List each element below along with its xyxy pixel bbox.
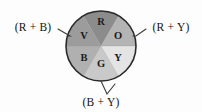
callout-label-left: (R + B): [15, 21, 52, 34]
sector-label-blue: B: [80, 52, 87, 63]
callout-label-right: (R + Y): [153, 21, 190, 34]
colour-wheel-svg: ROYGBV (R + B)(R + Y)(B + Y): [0, 0, 202, 112]
sector-label-yellow: Y: [114, 52, 122, 63]
callout-leader-bottom: [101, 81, 115, 94]
sector-label-red: R: [97, 16, 105, 27]
colour-wheel-figure: ROYGBV (R + B)(R + Y)(B + Y): [0, 0, 202, 112]
sector-label-orange: O: [114, 30, 122, 41]
sector-label-violet: V: [80, 30, 88, 41]
sector-label-green: G: [97, 58, 105, 69]
callout-label-bottom: (B + Y): [83, 96, 120, 109]
